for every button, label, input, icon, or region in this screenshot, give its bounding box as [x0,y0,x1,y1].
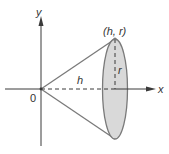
cone-diagram: y x 0 (h, r) h r [0,0,169,154]
apex-point-label: (h, r) [103,25,127,37]
origin-label: 0 [30,92,36,104]
height-label: h [77,74,83,86]
y-axis-label: y [35,6,43,18]
origin-point [40,88,43,91]
apex-point [113,37,116,40]
x-axis-arrow-icon [146,87,156,92]
x-axis-label: x [157,83,164,95]
